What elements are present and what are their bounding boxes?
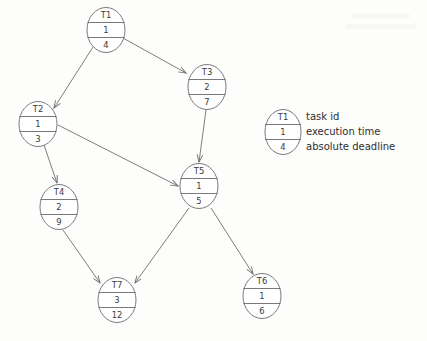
- legend-label-task-id: task id: [306, 111, 339, 122]
- task-graph: T1 1 4 T2 1 3 T3 2 7 T4 2 9: [0, 0, 427, 341]
- node-t1[interactable]: T1 1 4: [87, 8, 125, 53]
- node-absolute-deadline: 12: [112, 310, 123, 320]
- node-t5[interactable]: T5 1 5: [180, 164, 218, 209]
- node-task-id: T5: [193, 166, 204, 176]
- node-absolute-deadline: 4: [103, 40, 108, 50]
- node-absolute-deadline: 3: [35, 134, 40, 144]
- edge-t3-t5: [199, 110, 206, 162]
- edge-t2-t4: [44, 145, 57, 183]
- legend-label-absolute-deadline: absolute deadline: [306, 141, 395, 152]
- legend-sample-execution-time: 1: [280, 127, 285, 137]
- node-task-id: T6: [256, 276, 267, 286]
- legend: T1 1 4 task id execution time absolute d…: [265, 110, 395, 155]
- node-execution-time: 1: [259, 291, 264, 301]
- node-absolute-deadline: 6: [259, 306, 264, 316]
- node-absolute-deadline: 5: [196, 196, 201, 206]
- node-execution-time: 1: [103, 25, 108, 35]
- edge-t5-t6: [211, 208, 253, 274]
- node-t4[interactable]: T4 2 9: [40, 185, 78, 230]
- node-absolute-deadline: 9: [56, 217, 61, 227]
- node-t7[interactable]: T7 3 12: [98, 278, 136, 323]
- node-execution-time: 1: [196, 181, 201, 191]
- node-absolute-deadline: 7: [204, 97, 209, 107]
- node-execution-time: 2: [204, 82, 209, 92]
- edge-t1-t3: [123, 38, 186, 73]
- edge-t2-t5: [58, 125, 178, 186]
- node-t6[interactable]: T6 1 6: [243, 274, 281, 319]
- edge-t1-t2: [54, 47, 93, 108]
- diagram-canvas: T1 1 4 T2 1 3 T3 2 7 T4 2 9: [0, 0, 427, 341]
- node-execution-time: 3: [114, 295, 119, 305]
- node-execution-time: 2: [56, 202, 61, 212]
- node-task-id: T7: [111, 280, 122, 290]
- legend-label-execution-time: execution time: [306, 126, 381, 137]
- legend-sample-task-id: T1: [277, 112, 288, 122]
- edge-t4-t7: [63, 230, 100, 283]
- node-execution-time: 1: [35, 119, 40, 129]
- node-task-id: T3: [201, 67, 212, 77]
- node-task-id: T2: [32, 104, 43, 114]
- node-t3[interactable]: T3 2 7: [188, 65, 226, 110]
- legend-sample-absolute-deadline: 4: [280, 142, 285, 152]
- node-t2[interactable]: T2 1 3: [19, 102, 57, 147]
- node-task-id: T1: [100, 10, 111, 20]
- node-task-id: T4: [53, 187, 64, 197]
- edge-t5-t7: [135, 208, 189, 283]
